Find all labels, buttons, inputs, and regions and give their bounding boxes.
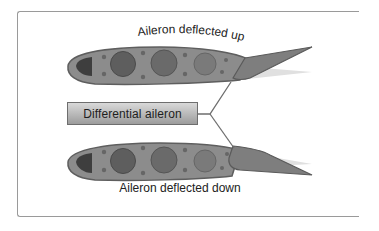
bottom-label: Aileron deflected down <box>115 181 245 195</box>
cavity-circle <box>111 52 136 77</box>
top-label: Aileron deflected up <box>137 22 247 44</box>
lower-airfoil <box>68 143 312 180</box>
connector-lines <box>198 82 234 148</box>
upper-airfoil <box>68 47 312 84</box>
differential-aileron-label: Differential aileron <box>67 102 198 125</box>
cavity-circle <box>151 50 177 76</box>
cavity-circle <box>111 149 136 174</box>
cavity-circle <box>151 147 177 173</box>
aileron-down <box>229 146 312 175</box>
cavity-circle <box>194 150 216 172</box>
cavity-circle <box>194 53 216 75</box>
center-label-text: Differential aileron <box>83 107 182 121</box>
